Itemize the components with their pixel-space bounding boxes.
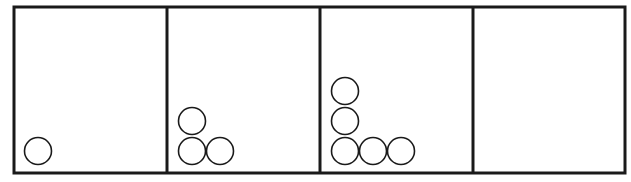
circle-shape xyxy=(332,108,359,135)
panel-3 xyxy=(332,78,415,165)
circle-shape xyxy=(179,108,206,135)
circle-shape xyxy=(332,138,359,165)
circle-shape xyxy=(25,138,52,165)
circle-shape xyxy=(332,78,359,105)
circle-shape xyxy=(179,138,206,165)
circle-shape xyxy=(207,138,234,165)
pattern-diagram xyxy=(0,0,631,182)
panels xyxy=(25,78,415,165)
panel-dividers xyxy=(167,7,473,173)
circle-shape xyxy=(388,138,415,165)
circle-shape xyxy=(360,138,387,165)
panel-2 xyxy=(179,108,234,165)
panel-1 xyxy=(25,138,52,165)
